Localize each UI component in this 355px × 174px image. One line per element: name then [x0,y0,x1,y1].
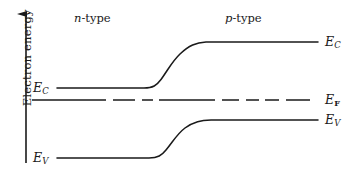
label-left-valence-subscript: V [42,156,48,166]
label-right-valence-subscript: V [334,118,340,128]
axis-title-electron-energy: Electron energy [22,3,34,113]
label-left-conduction-subscript: C [42,86,49,96]
label-left-conduction-symbol: E [33,80,42,95]
label-right-fermi-symbol: E [325,92,334,107]
label-left-conduction-band: EC [33,82,49,96]
label-right-fermi-subscript: F [334,98,340,108]
region-label-n-type: n-type [74,13,111,25]
conduction-band-curve [57,42,318,88]
label-right-valence-band: EV [325,114,340,128]
label-left-valence-symbol: E [33,150,42,165]
label-right-conduction-band: EC [325,36,341,50]
label-right-valence-symbol: E [325,112,334,127]
label-left-valence-band: EV [33,152,48,166]
band-diagram-figure: Electron energy n-type p-type EC EV EC E… [0,0,355,174]
region-label-p-type: p-type [225,13,262,25]
label-right-conduction-subscript: C [334,40,341,50]
band-diagram-canvas [0,0,355,174]
valence-band-curve [57,120,318,158]
label-right-conduction-symbol: E [325,34,334,49]
region-label-n-type-suffix: -type [81,11,110,25]
label-right-fermi-level: EF [325,94,340,107]
region-label-p-type-suffix: -type [232,11,261,25]
